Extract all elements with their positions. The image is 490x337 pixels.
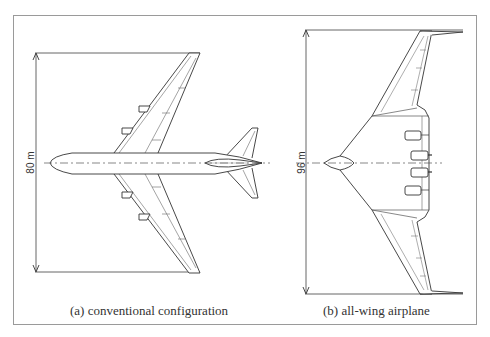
caption-all-wing: (b) all-wing airplane — [323, 303, 430, 319]
span-label-conventional: 80 m — [25, 148, 36, 178]
all-wing-airplane-drawing — [296, 30, 463, 294]
figure-drawing — [0, 0, 490, 337]
span-label-all-wing: 96 m — [296, 148, 307, 178]
aircraft-comparison-figure: 80 m 96 m (a) conventional configuration… — [0, 0, 490, 337]
conventional-airplane-drawing — [33, 53, 270, 273]
caption-conventional: (a) conventional configuration — [70, 303, 228, 319]
